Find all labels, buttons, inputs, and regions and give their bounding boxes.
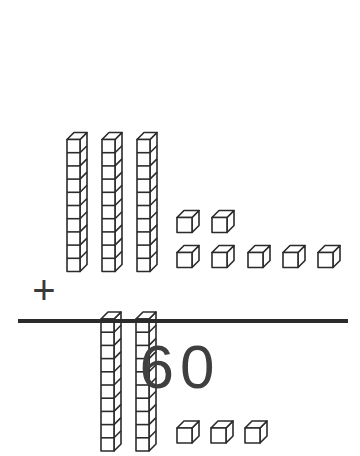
answer-separator-line (18, 319, 348, 323)
plus-operator: + (26, 272, 62, 308)
first-addend-blocks (0, 0, 360, 165)
second-addend-block-drawing (0, 170, 360, 456)
sum-answer: 60 (0, 336, 360, 398)
second-addend-ones-cubes (177, 421, 267, 443)
